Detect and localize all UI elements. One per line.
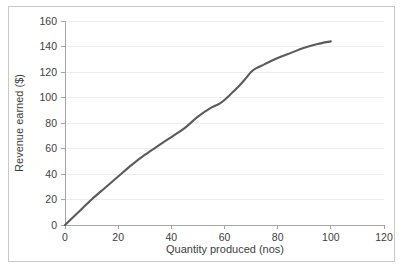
y-tick-label: 80 <box>45 117 57 129</box>
y-tick-label: 40 <box>45 168 57 180</box>
x-tick-label: 20 <box>112 231 124 243</box>
x-tick-label: 60 <box>219 231 231 243</box>
x-tick-label: 80 <box>272 231 284 243</box>
y-axis <box>61 21 65 225</box>
chart-figure: 020406080100120140160 020406080100120 Qu… <box>0 0 409 275</box>
chart-plot-frame: 020406080100120140160 020406080100120 Qu… <box>8 6 395 262</box>
y-tick-label: 100 <box>39 91 57 103</box>
y-axis-title: Revenue earned ($) <box>13 74 25 172</box>
gridlines <box>65 21 384 200</box>
x-tick-marks <box>65 225 384 229</box>
x-tick-label: 0 <box>62 231 68 243</box>
x-tick-label: 120 <box>375 231 393 243</box>
x-tick-label-group: 020406080100120 <box>62 231 393 243</box>
x-tick-label: 40 <box>165 231 177 243</box>
x-axis-title: Quantity produced (nos) <box>166 243 284 255</box>
y-tick-label: 20 <box>45 193 57 205</box>
y-tick-label-group: 020406080100120140160 <box>39 15 57 231</box>
x-axis <box>65 225 384 229</box>
y-tick-label: 140 <box>39 40 57 52</box>
revenue-series-line <box>65 41 331 225</box>
y-tick-label: 160 <box>39 15 57 27</box>
y-tick-marks <box>61 21 65 225</box>
line-chart-canvas: 020406080100120140160 020406080100120 Qu… <box>9 7 394 261</box>
y-tick-label: 120 <box>39 66 57 78</box>
y-tick-label: 60 <box>45 142 57 154</box>
y-tick-label: 0 <box>51 219 57 231</box>
x-tick-label: 100 <box>322 231 340 243</box>
